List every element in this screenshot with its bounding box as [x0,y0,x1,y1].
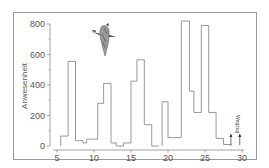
step-histogram-chart: 020040060080051015202530AnwesenheitWegzu… [0,0,269,168]
x-tick-label: 5 [54,153,59,163]
y-axis-title: Anwesenheit [20,62,29,109]
y-tick-label: 0 [40,141,45,151]
flying-goose-icon [91,23,116,56]
histogram-steps [61,21,231,146]
wegzug-label: Wegzug [235,115,241,133]
y-tick-label: 200 [30,111,45,121]
arrow-head-icon [238,134,241,138]
y-tick-label: 400 [30,80,45,90]
x-tick-label: 30 [237,153,247,163]
x-tick-label: 10 [89,153,99,163]
y-tick-label: 800 [30,19,45,29]
y-tick-label: 600 [30,50,45,60]
arrow-head-icon [229,134,232,138]
x-tick-label: 25 [200,153,210,163]
x-tick-label: 15 [126,153,136,163]
x-tick-label: 20 [163,153,173,163]
